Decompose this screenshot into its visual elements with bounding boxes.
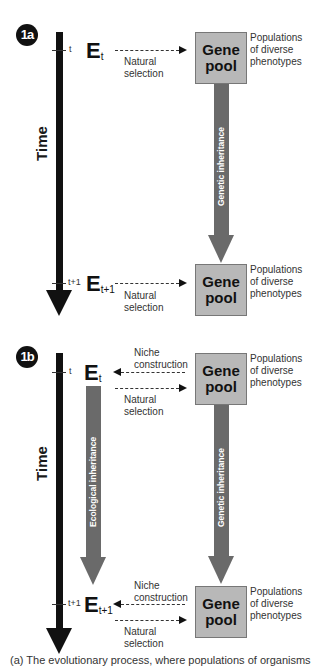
panel-b-genetic-inheritance-label: Genetic inheritance [216, 448, 226, 527]
panel-b-tick-t [52, 372, 66, 373]
panel-a-environment-t1: Et+1 [86, 273, 115, 299]
panel-a-natural-selection-arrow [115, 50, 179, 51]
arrowhead-right-icon [179, 616, 187, 624]
panel-b-niche-construction-arrow [121, 372, 185, 373]
panel-a-natural-selection-arrow-bottom [115, 283, 179, 284]
panel-b-tick-t1-label: t+1 [68, 598, 81, 608]
panel-a-populations-bottom: Populationsof diversephenotypes [250, 264, 302, 300]
panel-b-environment-t1: Et+1 [84, 594, 113, 620]
panel-a-gene-pool-top: Genepool [195, 32, 247, 84]
panel-a-tick-t1-label: t+1 [68, 277, 81, 287]
arrowhead-right-icon [179, 384, 187, 392]
panel-a-gene-pool-bottom: Genepool [195, 264, 247, 316]
panel-a-genetic-inheritance-label: Genetic inheritance [216, 127, 226, 206]
figure-caption: (a) The evolutionary process, where popu… [10, 654, 311, 666]
panel-b-natural-selection-arrow [115, 388, 179, 389]
panel-b-populations-top: Populationsof diversephenotypes [250, 353, 302, 389]
panel-b-time-axis [56, 353, 63, 631]
panel-a-tick-t1 [52, 283, 66, 284]
panel-b-niche-construction-label: Nicheconstruction [134, 347, 188, 371]
arrowhead-right-icon [179, 46, 187, 54]
panel-b-ecological-inheritance-label: Ecological inheritance [88, 437, 98, 527]
panel-a-tick-t [52, 50, 66, 51]
panel-a-genetic-arrowhead [208, 235, 234, 263]
panel-b-environment-t: Et [84, 362, 101, 388]
panel-a-populations-top: Populationsof diversephenotypes [250, 32, 302, 68]
panel-a-time-arrowhead [46, 290, 72, 316]
panel-b-genetic-arrowhead [208, 556, 234, 584]
panel-b-ecological-arrowhead [80, 557, 106, 585]
arrowhead-left-icon [113, 368, 121, 376]
arrowhead-left-icon [113, 600, 121, 608]
panel-a-tick-t-label: t [69, 44, 72, 54]
panel-b-natural-selection-arrow-bottom [115, 620, 179, 621]
panel-b-natural-selection-label: Naturalselection [124, 394, 163, 418]
panel-b-tick-t-label: t [69, 366, 72, 376]
panel-b-gene-pool-top: Genepool [195, 353, 247, 405]
panel-b-niche-construction-label-bottom: Nicheconstruction [134, 580, 188, 604]
panel-a-time-label: Time [33, 126, 50, 161]
panel-b-badge: 1b [16, 346, 38, 368]
panel-a-natural-selection-label-bottom: Naturalselection [124, 290, 163, 314]
panel-b-gene-pool-bottom: Genepool [195, 586, 247, 638]
panel-a-badge: 1a [16, 24, 38, 46]
arrowhead-right-icon [179, 279, 187, 287]
panel-a-natural-selection-label: Naturalselection [124, 56, 163, 80]
panel-b-time-arrowhead [46, 628, 72, 654]
panel-a-environment-t: Et [86, 40, 103, 66]
panel-b-populations-bottom: Populationsof diversephenotypes [250, 586, 302, 622]
panel-b-time-label: Time [33, 446, 50, 481]
panel-b-tick-t1 [52, 604, 66, 605]
panel-b-niche-construction-arrow-bottom [121, 604, 185, 605]
panel-b-natural-selection-label-bottom: Naturalselection [124, 626, 163, 650]
panel-a-time-axis [56, 32, 63, 294]
